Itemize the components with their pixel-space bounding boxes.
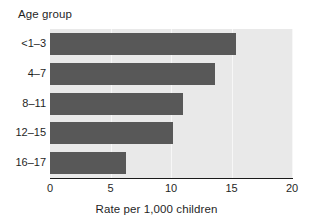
bar-row [50,152,292,174]
bar-8–11 [50,93,183,115]
x-tick-label-20: 20 [286,182,298,194]
plot-area [50,29,292,178]
bar-row [50,33,292,55]
x-axis-tick-labels: 05101520 [0,182,313,198]
bar-chart-figure: Age group <1–34–78–1112–1516–17 05101520… [0,0,313,224]
y-tick-label-1: 4–7 [0,67,46,79]
x-tick-label-5: 5 [107,182,113,194]
y-tick-label-4: 16–17 [0,156,46,168]
y-axis-tick-labels: <1–34–78–1112–1516–17 [0,29,46,178]
x-tick-label-15: 15 [225,182,237,194]
bar-12–15 [50,122,173,144]
bar-row [50,63,292,85]
bar-row [50,93,292,115]
bar-16–17 [50,152,126,174]
x-tick-label-10: 10 [165,182,177,194]
x-axis-line [50,178,293,179]
y-tick-label-0: <1–3 [0,37,46,49]
gridline-20 [292,29,293,178]
x-axis-title: Rate per 1,000 children [0,203,313,215]
y-tick-label-3: 12–15 [0,126,46,138]
y-tick-label-2: 8–11 [0,97,46,109]
bar-row [50,122,292,144]
bar-4–7 [50,63,215,85]
age-group-title: Age group [18,8,72,20]
bar-<1–3 [50,33,236,55]
x-tick-label-0: 0 [47,182,53,194]
